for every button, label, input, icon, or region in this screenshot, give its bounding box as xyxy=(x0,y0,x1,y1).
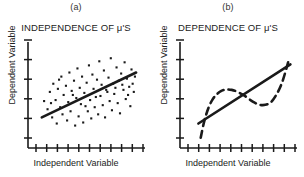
panel-b-title: DEPENDENCE OF μ'S xyxy=(152,22,304,33)
panel-a-y-axis-label: Dependent Variable xyxy=(7,7,17,123)
panel-b-y-axis-label: Dependent Variable xyxy=(159,7,169,123)
panel-a-title: INDEPENDENCE OF μ'S xyxy=(0,22,152,33)
panel-a-plot xyxy=(0,36,152,177)
panel-b: (b) DEPENDENCE OF μ'S Independent Variab… xyxy=(152,0,304,177)
panel-a-label: (a) xyxy=(0,2,152,12)
panel-a-scatter-points xyxy=(43,57,136,126)
panel-a-trend-line xyxy=(42,73,136,118)
panel-b-trend-line xyxy=(198,64,290,123)
panel-b-label: (b) xyxy=(152,2,304,12)
panel-a-x-axis-label: Independent Variable xyxy=(0,158,152,168)
panel-b-x-axis-label: Independent Variable xyxy=(152,158,304,168)
panel-a: (a) INDEPENDENCE OF μ'S Independent Vari… xyxy=(0,0,152,177)
panel-b-plot xyxy=(152,36,304,177)
panel-b-axes xyxy=(180,42,297,148)
figure-container: (a) INDEPENDENCE OF μ'S Independent Vari… xyxy=(0,0,304,177)
